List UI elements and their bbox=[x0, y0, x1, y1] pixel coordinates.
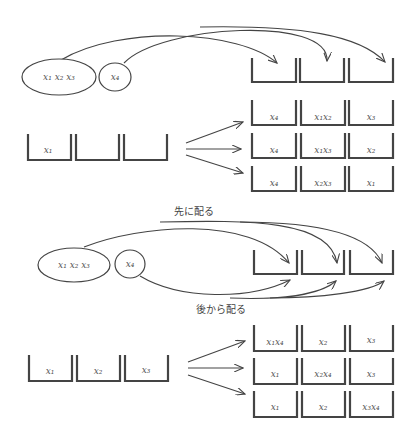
source-box bbox=[124, 134, 167, 160]
box-label: x₂x₄ bbox=[314, 369, 332, 379]
box-label: x₂ bbox=[367, 145, 376, 155]
group-label: x₄ bbox=[126, 259, 135, 269]
box-label: x₃ bbox=[367, 335, 376, 345]
arrow bbox=[186, 155, 243, 173]
arrow-curve bbox=[84, 229, 289, 263]
target-grid: x₄ x₁x₂ x₃ x₄ x₁x₃ x₂ x₄ x₂x₃ x₁ bbox=[252, 100, 393, 191]
box-label: x₁ bbox=[46, 366, 55, 376]
arrow-curve bbox=[61, 36, 277, 63]
box-label: x₂x₃ bbox=[314, 178, 332, 188]
group-label: x₄ bbox=[111, 72, 120, 82]
top-diagram: x₁ x₂ x₃ x₄ x₁ x₄ x₁x₂ x₃ x₄ x₁x₃ x₂ x₄ … bbox=[22, 27, 393, 191]
box-label: x₃ bbox=[367, 369, 376, 379]
empty-box bbox=[350, 250, 393, 274]
empty-box bbox=[302, 250, 344, 274]
box-label: x₁x₂ bbox=[314, 112, 332, 122]
box-label: x₄ bbox=[270, 178, 279, 188]
box-label: x₁ bbox=[271, 402, 280, 412]
label-distribute-later: 後から配る bbox=[196, 303, 246, 315]
box-label: x₂ bbox=[319, 402, 328, 412]
box-label: x₁x₄ bbox=[266, 337, 284, 347]
box-label: x₃ bbox=[367, 112, 376, 122]
arrow bbox=[188, 341, 245, 362]
arrow-curve bbox=[270, 281, 384, 298]
arrow bbox=[188, 375, 245, 394]
bottom-diagram: 先に配る 後から配る x₁ x₂ x₃ x₄ x₁ x₂ x₃ x₁x₄ bbox=[29, 206, 393, 417]
box-label: x₁ bbox=[44, 145, 53, 155]
label-distribute-first: 先に配る bbox=[174, 206, 214, 217]
box-label: x₁ bbox=[367, 178, 376, 188]
box-label: x₁ bbox=[271, 369, 280, 379]
group-label: x₁ x₂ x₃ bbox=[43, 72, 75, 82]
source-box bbox=[76, 134, 119, 160]
box-label: x₂ bbox=[94, 366, 103, 376]
arrow-curve bbox=[160, 221, 337, 263]
empty-box bbox=[349, 58, 393, 82]
empty-box bbox=[252, 58, 296, 82]
box-label: x₂ bbox=[319, 337, 328, 347]
box-label: x₁x₃ bbox=[314, 145, 332, 155]
box-label: x₃ bbox=[142, 365, 151, 375]
arrow bbox=[186, 122, 243, 143]
empty-box bbox=[300, 58, 344, 82]
arrow-curve bbox=[200, 27, 385, 62]
distribution-diagram: x₁ x₂ x₃ x₄ x₁ x₄ x₁x₂ x₃ x₄ x₁x₃ x₂ x₄ … bbox=[0, 0, 415, 437]
box-label: x₃x₄ bbox=[362, 402, 380, 412]
box-label: x₄ bbox=[270, 112, 279, 122]
target-grid: x₁x₄ x₂ x₃ x₁ x₂x₄ x₃ x₁ x₂ x₃x₄ bbox=[254, 325, 393, 417]
arrow-curve bbox=[140, 276, 290, 295]
box-label: x₄ bbox=[270, 145, 279, 155]
group-label: x₁ x₂ x₃ bbox=[58, 260, 90, 270]
empty-box bbox=[254, 250, 297, 274]
